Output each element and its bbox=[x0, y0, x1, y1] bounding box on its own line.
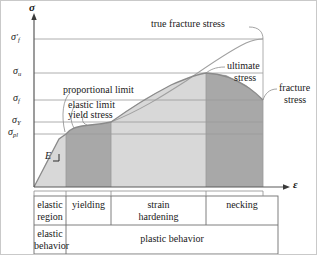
annotation-ultimate-stress-line1: ultimate bbox=[227, 61, 260, 72]
shade-strain-hardening bbox=[111, 31, 206, 187]
y-tick-proportional-limit: σpl bbox=[8, 127, 18, 138]
behavior-label-elastic-line2: behavior bbox=[34, 240, 66, 252]
annotation-fracture-stress-line1: fracture bbox=[279, 83, 310, 94]
region-label-strain-hardening: strain hardening bbox=[111, 199, 206, 222]
region-brace-ticks bbox=[34, 191, 263, 196]
behavior-label-elastic-line1: elastic bbox=[34, 228, 66, 240]
y-tick-ultimate-sub: u bbox=[18, 70, 21, 77]
annotation-modulus-E: E bbox=[45, 151, 51, 162]
y-axis-arrow bbox=[31, 13, 36, 20]
behavior-label-plastic: plastic behavior bbox=[66, 233, 278, 245]
y-tick-true-fracture-stress: σ′f bbox=[11, 32, 20, 43]
y-tick-yield-stress: σY bbox=[12, 115, 21, 126]
stress-strain-figure: σ ε σ′f σu σf σY σpl true fracture stres… bbox=[0, 0, 317, 255]
x-axis-arrow bbox=[283, 184, 290, 189]
region-label-yielding-line1: yielding bbox=[66, 199, 111, 211]
region-label-necking: necking bbox=[206, 199, 278, 211]
shade-elastic-region bbox=[34, 31, 66, 187]
y-tick-fracture-sub: f bbox=[18, 97, 20, 104]
region-label-necking-line1: necking bbox=[206, 199, 278, 211]
annotation-fracture-stress-line2: stress bbox=[284, 95, 306, 106]
behavior-label-plastic-line1: plastic behavior bbox=[66, 233, 278, 245]
annotation-ultimate-stress-line2: stress bbox=[234, 73, 256, 84]
y-tick-true-fracture-sub: f bbox=[18, 36, 20, 43]
annotation-true-fracture-stress: true fracture stress bbox=[151, 19, 225, 30]
annotation-yield-stress: yield stress bbox=[68, 110, 113, 121]
behavior-label-elastic: elastic behavior bbox=[34, 228, 66, 251]
leader-fracture-stress bbox=[263, 89, 277, 100]
y-tick-proportional-sub: pl bbox=[13, 131, 18, 138]
y-axis-label: σ bbox=[29, 2, 35, 14]
x-axis-label: ε bbox=[293, 179, 298, 191]
y-tick-yield-sub: Y bbox=[17, 119, 21, 126]
annotation-proportional-limit: proportional limit bbox=[63, 85, 134, 96]
shade-necking bbox=[206, 31, 263, 187]
leader-ultimate-stress bbox=[206, 67, 225, 73]
region-label-elastic-region-line1: elastic bbox=[34, 199, 66, 211]
region-label-yielding: yielding bbox=[66, 199, 111, 211]
region-label-strain-hardening-line1: strain bbox=[111, 199, 206, 211]
y-tick-ultimate-stress: σu bbox=[13, 66, 21, 77]
leader-true-fracture-stress bbox=[249, 27, 263, 39]
region-label-elastic-region-line2: region bbox=[34, 211, 66, 223]
region-label-elastic-region: elastic region bbox=[34, 199, 66, 222]
region-label-strain-hardening-line2: hardening bbox=[111, 211, 206, 223]
y-tick-fracture-stress: σf bbox=[13, 93, 20, 104]
